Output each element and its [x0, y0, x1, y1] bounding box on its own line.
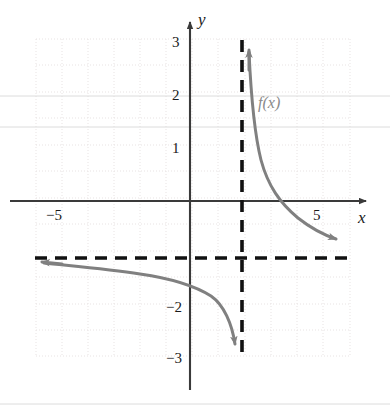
x-tick-label-5: 5 [313, 207, 321, 224]
y-axis-label: y [198, 10, 206, 30]
y-tick-label-2: 2 [172, 87, 180, 104]
x-tick-label-minus-5: −5 [46, 207, 62, 224]
page-rule-lines [0, 96, 390, 404]
y-tick-label-3: 3 [172, 34, 180, 51]
function-label: f(x) [258, 94, 280, 112]
y-tick-label-1: 1 [172, 140, 180, 157]
y-tick-label-minus-3: −3 [166, 350, 182, 367]
grid-lines [36, 39, 350, 356]
y-tick-label-minus-2: −2 [166, 299, 182, 316]
function-graph-figure: y x 3 2 1 −2 −3 −5 5 f(x) [0, 0, 390, 414]
curve-lower-left-arrowhead-left [42, 262, 62, 264]
x-axis-label: x [358, 208, 366, 228]
